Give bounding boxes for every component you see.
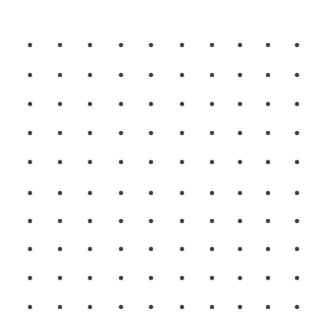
grid-dot [149,160,153,164]
grid-dot [180,191,184,195]
grid-dot [149,247,153,251]
grid-dot [238,305,242,309]
grid-dot [119,102,123,106]
grid-dot [295,102,299,106]
grid-dot [58,219,62,223]
grid-dot [210,43,214,47]
grid-dot [266,43,270,47]
grid-dot [238,276,242,280]
grid-dot [295,247,299,251]
grid-dot [210,73,214,77]
grid-dot [295,219,299,223]
grid-dot [88,219,92,223]
grid-dot [119,247,123,251]
grid-dot [266,219,270,223]
grid-dot [58,160,62,164]
grid-dot [266,305,270,309]
grid-dot [58,131,62,135]
grid-dot [28,219,32,223]
grid-dot [58,305,62,309]
grid-dot [266,131,270,135]
grid-dot [28,160,32,164]
grid-dot [210,276,214,280]
grid-dot [238,160,242,164]
grid-dot [119,131,123,135]
grid-dot [266,247,270,251]
grid-dot [295,73,299,77]
grid-dot [295,305,299,309]
grid-dot [88,43,92,47]
grid-dot [180,102,184,106]
grid-dot [88,276,92,280]
grid-dot [180,160,184,164]
grid-dot [266,102,270,106]
grid-dot [210,247,214,251]
grid-dot [119,276,123,280]
grid-dot [119,219,123,223]
grid-dot [88,191,92,195]
dot-grid [0,0,326,333]
grid-dot [28,73,32,77]
grid-dot [119,43,123,47]
grid-dot [210,102,214,106]
grid-dot [180,305,184,309]
grid-dot [210,191,214,195]
grid-dot [295,131,299,135]
grid-dot [149,276,153,280]
grid-dot [180,73,184,77]
grid-dot [28,131,32,135]
grid-dot [58,43,62,47]
grid-dot [88,305,92,309]
grid-dot [28,102,32,106]
grid-dot [266,191,270,195]
grid-dot [149,73,153,77]
grid-dot [88,160,92,164]
grid-dot [180,43,184,47]
grid-dot [58,73,62,77]
grid-dot [88,102,92,106]
grid-dot [149,43,153,47]
grid-dot [238,191,242,195]
grid-dot [149,131,153,135]
grid-dot [28,43,32,47]
grid-dot [58,276,62,280]
grid-dot [295,160,299,164]
grid-dot [238,131,242,135]
grid-dot [149,219,153,223]
grid-dot [180,219,184,223]
grid-dot [180,276,184,280]
grid-dot [119,73,123,77]
grid-dot [88,73,92,77]
grid-dot [210,160,214,164]
grid-dot [180,247,184,251]
grid-dot [210,131,214,135]
grid-dot [266,73,270,77]
grid-dot [88,131,92,135]
grid-dot [266,276,270,280]
grid-dot [266,160,270,164]
grid-dot [238,247,242,251]
grid-dot [238,73,242,77]
grid-dot [210,305,214,309]
grid-dot [28,276,32,280]
grid-dot [295,191,299,195]
grid-dot [238,102,242,106]
grid-dot [28,247,32,251]
grid-dot [238,43,242,47]
grid-dot [238,219,242,223]
grid-dot [119,305,123,309]
grid-dot [88,247,92,251]
grid-dot [149,191,153,195]
grid-dot [119,160,123,164]
grid-dot [295,43,299,47]
grid-dot [149,305,153,309]
grid-dot [58,247,62,251]
grid-dot [58,102,62,106]
grid-dot [119,191,123,195]
grid-dot [28,191,32,195]
grid-dot [149,102,153,106]
grid-dot [295,276,299,280]
grid-dot [180,131,184,135]
grid-dot [58,191,62,195]
grid-dot [28,305,32,309]
